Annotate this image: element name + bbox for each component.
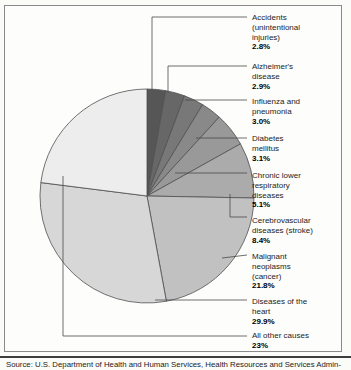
slice-percent: 5.1%	[252, 200, 344, 210]
slice-label-text: Influenza and	[252, 97, 344, 107]
slice-label-text: Accidents	[252, 13, 344, 23]
slice-label-6: Malignantneoplasms(cancer)21.8%	[252, 252, 344, 291]
slice-label-text: Diabetes	[252, 134, 344, 144]
slice-label-8: All other causes23%	[252, 331, 344, 351]
slice-label-text: Malignant	[252, 252, 344, 262]
slice-label-2: Influenza andpneumonia3.0%	[252, 97, 344, 126]
slice-percent: 21.8%	[252, 281, 344, 291]
bottom-rule	[0, 356, 351, 358]
slice-label-text: diseases (stroke)	[252, 226, 344, 236]
slice-label-text: disease	[252, 72, 344, 82]
slice-label-text: All other causes	[252, 331, 344, 341]
slice-label-text: neoplasms	[252, 262, 344, 272]
slice-label-text: diseases	[252, 191, 344, 201]
slice-label-0: Accidents(unintentionalinjuries)2.8%	[252, 13, 344, 52]
source-credit: Source: U.S. Department of Health and Hu…	[6, 360, 351, 369]
slice-percent: 8.4%	[252, 236, 344, 246]
slice-label-text: (cancer)	[252, 272, 344, 282]
slice-label-3: Diabetesmellitus3.1%	[252, 134, 344, 163]
slice-label-5: Cerebrovasculardiseases (stroke)8.4%	[252, 216, 344, 245]
slice-label-text: (unintentional	[252, 23, 344, 33]
slice-label-text: Cerebrovascular	[252, 216, 344, 226]
slice-label-4: Chronic lowerrespiratorydiseases5.1%	[252, 171, 344, 210]
slice-percent: 23%	[252, 341, 344, 351]
slice-label-text: Alzheimer's	[252, 62, 344, 72]
slice-label-7: Diseases of theheart29.9%	[252, 297, 344, 326]
slice-percent: 29.9%	[252, 317, 344, 327]
slice-label-1: Alzheimer'sdisease2.9%	[252, 62, 344, 91]
slice-label-text: injuries)	[252, 33, 344, 43]
slice-label-text: respiratory	[252, 181, 344, 191]
slice-label-text: mellitus	[252, 144, 344, 154]
slice-percent: 3.0%	[252, 117, 344, 127]
slice-label-text: Diseases of the	[252, 297, 344, 307]
slice-percent: 2.8%	[252, 42, 344, 52]
slice-label-text: heart	[252, 307, 344, 317]
slice-label-text: pneumonia	[252, 107, 344, 117]
slice-percent: 2.9%	[252, 82, 344, 92]
slice-percent: 3.1%	[252, 154, 344, 164]
label-column: Accidents(unintentionalinjuries)2.8%Alzh…	[0, 0, 351, 370]
slice-label-text: Chronic lower	[252, 171, 344, 181]
